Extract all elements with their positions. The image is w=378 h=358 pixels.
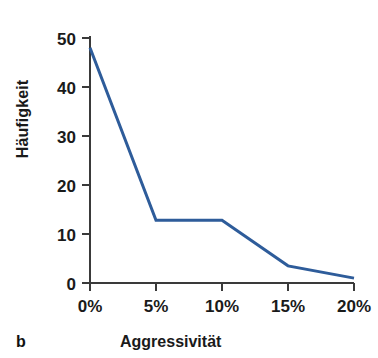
y-tick-label-20: 20 bbox=[57, 177, 76, 196]
line-chart-plot: 50 40 30 20 10 0 0% 5% 10% 15% 20% bbox=[0, 0, 378, 358]
x-axis-title: Aggressivität bbox=[120, 333, 340, 351]
y-tick-label-50: 50 bbox=[57, 30, 76, 49]
x-tick-label-15: 15% bbox=[271, 297, 305, 316]
y-tick-label-0: 0 bbox=[67, 275, 76, 294]
x-tick-label-0: 0% bbox=[78, 297, 103, 316]
y-axis-ticks bbox=[82, 38, 90, 283]
panel-letter-label: b bbox=[16, 333, 26, 351]
x-tick-label-10: 10% bbox=[205, 297, 239, 316]
y-tick-label-30: 30 bbox=[57, 128, 76, 147]
x-tick-label-20: 20% bbox=[337, 297, 371, 316]
y-tick-label-10: 10 bbox=[57, 226, 76, 245]
y-tick-label-40: 40 bbox=[57, 79, 76, 98]
x-axis-ticks bbox=[90, 283, 354, 291]
figure-panel-b: Häufigkeit 50 40 30 20 10 0 0% bbox=[0, 0, 378, 358]
data-series-line bbox=[90, 48, 354, 278]
x-tick-label-5: 5% bbox=[144, 297, 169, 316]
